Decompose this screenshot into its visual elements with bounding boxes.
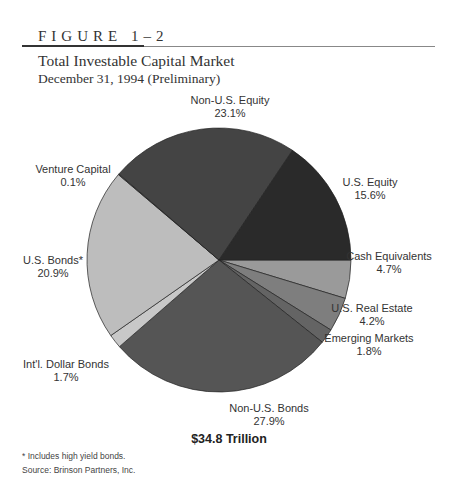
slice-value: 1.7% <box>23 371 109 384</box>
slice-label-u-s-equity: U.S. Equity15.6% <box>342 176 397 202</box>
slice-value: 23.1% <box>191 107 270 120</box>
slice-name: Non-U.S. Bonds <box>229 402 308 415</box>
slice-label-u-s-bonds: U.S. Bonds*20.9% <box>23 254 83 280</box>
slice-value: 4.2% <box>331 315 412 328</box>
total-label: $34.8 Trillion <box>191 432 267 446</box>
slice-value: 4.7% <box>346 263 432 276</box>
slice-value: 0.1% <box>35 176 110 189</box>
slice-value: 27.9% <box>229 415 308 428</box>
slice-label-u-s-real-estate: U.S. Real Estate4.2% <box>331 302 412 328</box>
slice-name: U.S. Real Estate <box>331 302 412 315</box>
slice-label-non-u-s-equity: Non-U.S. Equity23.1% <box>191 94 270 120</box>
source-note: Source: Brinson Partners, Inc. <box>22 465 135 475</box>
slice-name: U.S. Equity <box>342 176 397 189</box>
slice-name: Int'l. Dollar Bonds <box>23 358 109 371</box>
slice-name: U.S. Bonds* <box>23 254 83 267</box>
slice-name: Cash Equivalents <box>346 250 432 263</box>
slice-name: Non-U.S. Equity <box>191 94 270 107</box>
footnote: * Includes high yield bonds. <box>22 451 126 461</box>
slice-name: Venture Capital <box>35 163 110 176</box>
slice-label-venture-capital: Venture Capital0.1% <box>35 163 110 189</box>
slice-name: Emerging Markets <box>324 332 413 345</box>
slice-value: 20.9% <box>23 267 83 280</box>
slice-label-cash-equivalents: Cash Equivalents4.7% <box>346 250 432 276</box>
slice-value: 15.6% <box>342 189 397 202</box>
slice-label-emerging-markets: Emerging Markets1.8% <box>324 332 413 358</box>
slice-value: 1.8% <box>324 345 413 358</box>
slice-label-non-u-s-bonds: Non-U.S. Bonds27.9% <box>229 402 308 428</box>
slice-label-int-l-dollar-bonds: Int'l. Dollar Bonds1.7% <box>23 358 109 384</box>
